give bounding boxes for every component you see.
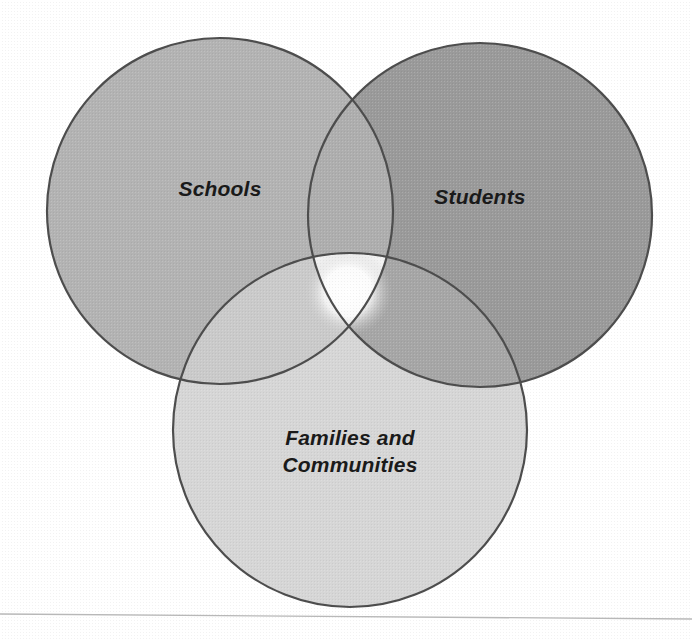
venn-diagram-figure: Schools Students Families and Communitie… [0,0,692,640]
venn-diagram-canvas [0,0,692,640]
halftone-texture [0,0,692,640]
venn-region-fills [0,0,692,640]
